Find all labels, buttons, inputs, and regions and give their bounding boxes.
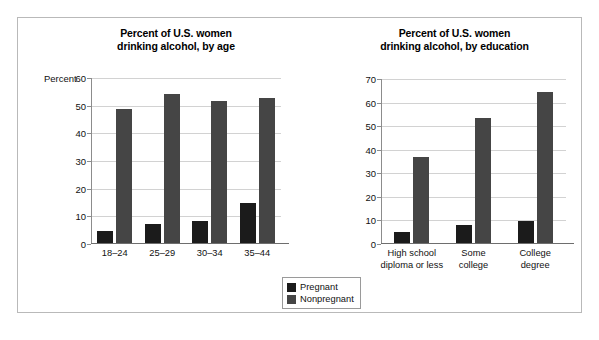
plot-area-by-education: 010203040506070High schooldiploma or les… (381, 79, 566, 244)
y-axis-tick-label: 60 (75, 73, 86, 84)
y-axis-tick-label: 10 (365, 215, 376, 226)
x-axis-category-label: Collegedegree (519, 248, 551, 271)
chart-title-by-age: Percent of U.S. women drinking alcohol, … (18, 27, 308, 53)
bar-pregnant (394, 232, 410, 243)
bar-pregnant (240, 203, 256, 243)
figure-frame: Percent of U.S. women drinking alcohol, … (17, 17, 582, 313)
bar-nonpregnant (116, 109, 132, 243)
y-axis-tick-mark (377, 244, 381, 245)
x-axis-category-label: High schooldiploma or less (381, 248, 444, 271)
bar-pregnant (456, 225, 472, 243)
bar-group: Somecollege (443, 78, 505, 243)
y-axis-tick-label: 10 (75, 211, 86, 222)
y-axis-tick-label: 60 (365, 97, 376, 108)
chart-title-line-2: drinking alcohol, by education (326, 40, 583, 53)
bar-nonpregnant (211, 101, 227, 243)
plot-area-by-age: 010203040506018–2425–2930–3435–44 (91, 78, 281, 244)
y-axis-tick-label: 20 (365, 191, 376, 202)
y-axis-title-by-age: Percent (44, 73, 77, 84)
bar-nonpregnant (537, 92, 553, 243)
bar-pregnant (192, 221, 208, 243)
y-axis-tick-label: 0 (371, 239, 376, 250)
bar-pregnant (145, 224, 161, 243)
bar-group: 25–29 (139, 77, 187, 243)
bar-group: 18–24 (91, 77, 139, 243)
y-axis-tick-label: 20 (75, 183, 86, 194)
x-axis-category-label: Somecollege (459, 248, 488, 271)
chart-panel-by-education: Percent of U.S. women drinking alcohol, … (308, 18, 583, 312)
y-axis-tick-label: 50 (365, 121, 376, 132)
bar-pregnant (518, 221, 534, 243)
y-axis-tick-label: 0 (81, 239, 86, 250)
x-axis-category-label: 25–29 (149, 248, 175, 260)
x-axis-category-label: 18–24 (102, 248, 128, 260)
chart-panel-by-age: Percent of U.S. women drinking alcohol, … (18, 18, 308, 312)
bar-nonpregnant (413, 157, 429, 243)
y-axis-line-by-age (91, 78, 92, 244)
legend-swatch-nonpregnant-icon (287, 295, 296, 304)
y-axis-line-by-education (381, 79, 382, 244)
x-axis-line-by-education (381, 243, 574, 244)
y-axis-tick-label: 40 (75, 128, 86, 139)
chart-title-line-1: Percent of U.S. women (326, 27, 583, 40)
bar-pregnant (97, 231, 113, 243)
bar-group: High schooldiploma or less (381, 78, 443, 243)
y-axis-tick-mark (87, 244, 91, 245)
chart-legend: Pregnant Nonpregnant (282, 277, 361, 309)
legend-item-nonpregnant: Nonpregnant (287, 293, 354, 305)
bar-nonpregnant (164, 94, 180, 243)
legend-swatch-pregnant-icon (287, 283, 296, 292)
x-axis-line-by-age (91, 243, 289, 244)
y-axis-tick-label: 30 (75, 156, 86, 167)
x-axis-category-label: 35–44 (244, 248, 270, 260)
y-axis-tick-label: 40 (365, 144, 376, 155)
bar-nonpregnant (475, 118, 491, 243)
legend-label-pregnant: Pregnant (300, 282, 338, 292)
bar-group: 30–34 (186, 77, 234, 243)
x-axis-category-label: 30–34 (197, 248, 223, 260)
legend-label-nonpregnant: Nonpregnant (300, 294, 354, 304)
legend-item-pregnant: Pregnant (287, 281, 354, 293)
y-axis-tick-label: 70 (365, 74, 376, 85)
bar-group: 35–44 (234, 77, 282, 243)
bar-nonpregnant (259, 98, 275, 243)
y-axis-tick-label: 30 (365, 168, 376, 179)
chart-title-line-2: drinking alcohol, by age (44, 40, 308, 53)
chart-title-line-1: Percent of U.S. women (44, 27, 308, 40)
bar-group: Collegedegree (504, 78, 566, 243)
y-axis-tick-label: 50 (75, 100, 86, 111)
chart-title-by-education: Percent of U.S. women drinking alcohol, … (308, 27, 583, 53)
